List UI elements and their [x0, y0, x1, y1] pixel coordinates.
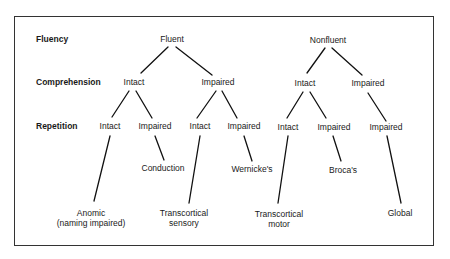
- node-repetition-intact-2: Intact: [190, 121, 211, 131]
- outcome-wernickes: Wernicke's: [231, 164, 272, 174]
- outcome-brocas: Broca's: [329, 165, 357, 175]
- outcome-global: Global: [388, 208, 413, 218]
- outcome-transcortical-sensory: Transcortical sensory: [160, 208, 208, 228]
- node-fluent-comprehension-impaired: Impaired: [201, 77, 234, 87]
- outcome-tc-motor-label: Transcortical: [255, 209, 303, 219]
- node-fluent-comprehension-intact: Intact: [124, 77, 145, 87]
- node-nonfluent-comprehension-impaired: Impaired: [351, 78, 384, 88]
- outcome-anomic: Anomic (naming impaired): [57, 208, 126, 228]
- outcome-transcortical-motor: Transcortical motor: [255, 209, 303, 229]
- node-repetition-impaired-2: Impaired: [227, 121, 260, 131]
- node-repetition-intact-1: Intact: [100, 121, 121, 131]
- node-nonfluent: Nonfluent: [310, 35, 346, 45]
- node-repetition-impaired-1: Impaired: [138, 121, 171, 131]
- outcome-anomic-label: Anomic: [57, 208, 126, 218]
- node-fluent: Fluent: [160, 34, 184, 44]
- outcome-tc-motor-sublabel: motor: [255, 219, 303, 229]
- node-nonfluent-comprehension-intact: Intact: [295, 78, 316, 88]
- node-repetition-impaired-4: Impaired: [369, 122, 402, 132]
- outcome-tc-sensory-label: Transcortical: [160, 208, 208, 218]
- row-label-fluency: Fluency: [36, 34, 68, 44]
- outcome-conduction: Conduction: [141, 163, 184, 173]
- outcome-anomic-sublabel: (naming impaired): [57, 218, 126, 228]
- row-label-comprehension: Comprehension: [36, 77, 101, 87]
- node-repetition-impaired-3: Impaired: [317, 122, 350, 132]
- row-label-repetition: Repetition: [36, 121, 78, 131]
- outcome-tc-sensory-sublabel: sensory: [160, 218, 208, 228]
- node-repetition-intact-3: Intact: [278, 122, 299, 132]
